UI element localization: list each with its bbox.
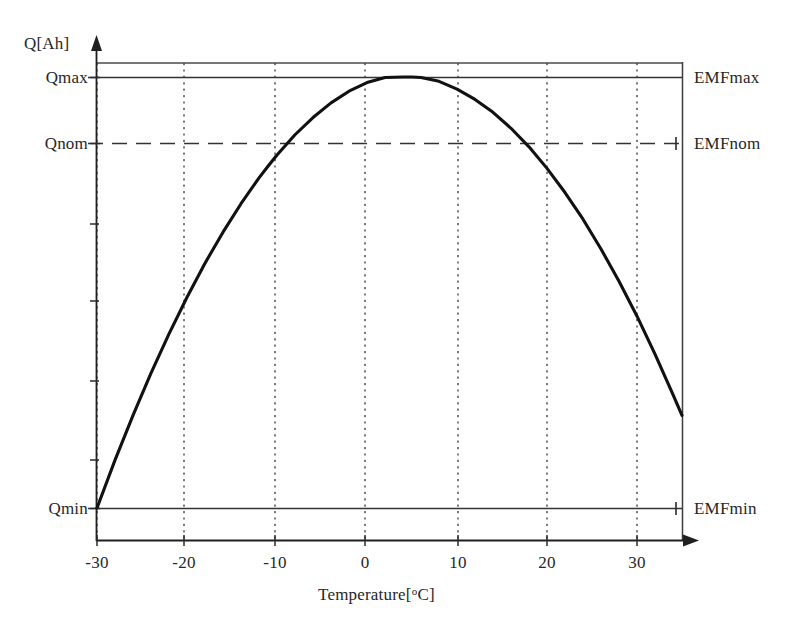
x-axis-title-suffix: C] [417,585,434,604]
y-axis-title: Q[Ah] [24,35,69,52]
x-tick-label-10: 10 [428,554,488,571]
y-axis-arrowhead [91,35,102,51]
x-tick-label-0: 0 [335,554,395,571]
x-tick-label-30: 30 [607,554,667,571]
y-axis-ticks [90,78,100,509]
gridlines-vertical [97,63,637,540]
x-axis-arrowhead [683,535,699,547]
y-label-emfmin: EMFmin [694,500,757,517]
x-axis-title-prefix: Temperature[ [318,585,412,604]
y-label-emfnom: EMFnom [694,135,760,152]
x-tick-label--10: -10 [245,554,305,571]
y-label-emfmax: EMFmax [694,69,759,86]
y-label-qmax: Qmax [0,69,88,86]
y-label-qmin: Qmin [0,500,88,517]
x-tick-label-20: 20 [517,554,577,571]
chart-canvas [0,0,793,632]
chart-figure: Q[Ah] Qmax Qnom Qmin EMFmax EMFnom EMFmi… [0,0,793,632]
capacity-temperature-curve [97,77,682,508]
x-axis-title: Temperature[oC] [318,586,435,603]
y-label-qnom: Qnom [0,135,88,152]
x-tick-label--30: -30 [67,554,127,571]
x-tick-label--20: -20 [154,554,214,571]
